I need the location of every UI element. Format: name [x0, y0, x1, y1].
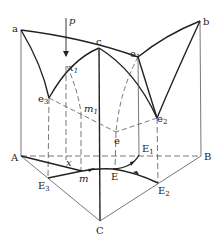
label-m1: m1 — [84, 103, 98, 116]
label-x1: x1 — [68, 62, 78, 75]
arrowhead-E1 — [130, 161, 135, 166]
edge-c-C — [99, 48, 100, 221]
proj-e1-E1 — [138, 57, 139, 155]
label-m: m — [79, 173, 88, 184]
path-E2-E — [113, 169, 158, 183]
label-e: e — [114, 135, 120, 146]
dash-e3-e — [49, 98, 116, 132]
curve-a-e3 — [21, 30, 49, 98]
proj-e3-E3 — [48, 98, 49, 178]
label-B: B — [204, 151, 211, 162]
curve-e1-e2 — [138, 57, 157, 118]
label-e3: e3 — [38, 93, 48, 106]
label-a: a — [12, 23, 18, 34]
label-E2: E2 — [158, 185, 170, 198]
base-B-C — [100, 156, 201, 221]
label-x: x — [66, 157, 72, 168]
label-C: C — [96, 225, 104, 236]
curve-b-e1 — [138, 21, 200, 57]
edge-b-B — [200, 21, 201, 156]
label-E: E — [111, 171, 118, 182]
label-E1: E1 — [142, 143, 154, 156]
label-e1: e1 — [130, 48, 140, 61]
label-b: b — [203, 16, 209, 27]
diagram-canvas: a b c p e1 e2 e3 e x1 m1 A B C E E1 E2 E… — [0, 0, 222, 247]
label-c: c — [96, 36, 102, 47]
label-p: p — [69, 15, 76, 26]
path-E1-E — [113, 155, 139, 169]
dash-e2-e — [116, 118, 157, 132]
label-E3: E3 — [38, 180, 50, 193]
label-A: A — [10, 152, 19, 163]
curve-c-e2 — [99, 48, 157, 118]
proj-e2-E2 — [157, 118, 158, 183]
label-e2: e2 — [157, 113, 167, 126]
curve-a-e1 — [21, 30, 138, 57]
dash-e1-e — [116, 57, 138, 132]
curve-b-e2 — [157, 21, 200, 118]
phase-diagram: a b c p e1 e2 e3 e x1 m1 A B C E E1 E2 E… — [0, 0, 222, 247]
